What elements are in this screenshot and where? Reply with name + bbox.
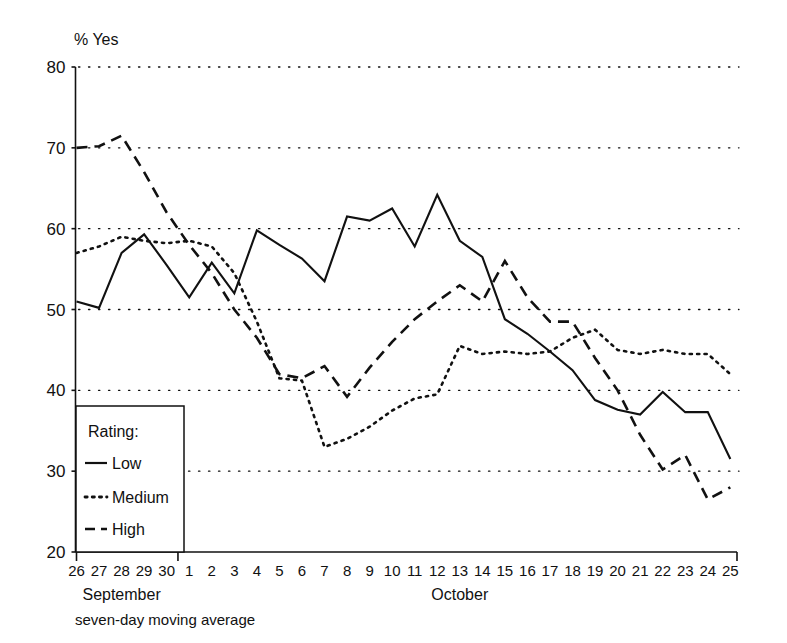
x-tick-label-29: 25	[722, 562, 739, 579]
y-tick-label-40: 40	[47, 381, 66, 400]
chart-container: 20304050607080 % Yes 2627282930123456789…	[0, 0, 787, 643]
x-group-label-october: October	[431, 586, 489, 603]
legend-label-high: High	[112, 521, 145, 538]
x-tick-label-1: 27	[91, 562, 108, 579]
x-tick-labels: 2627282930123456789101112131415161718192…	[68, 562, 739, 579]
x-tick-label-5: 1	[185, 562, 193, 579]
legend-label-medium: Medium	[112, 489, 169, 506]
x-tick-label-8: 4	[253, 562, 261, 579]
y-tick-labels: 20304050607080	[47, 58, 76, 562]
y-tick-label-70: 70	[47, 139, 66, 158]
x-tick-label-14: 10	[384, 562, 401, 579]
x-tick-label-24: 20	[609, 562, 626, 579]
x-tick-label-10: 6	[298, 562, 306, 579]
x-tick-label-20: 16	[519, 562, 536, 579]
legend-label-low: Low	[112, 455, 142, 472]
x-tick-label-16: 12	[429, 562, 446, 579]
x-tick-label-19: 15	[497, 562, 514, 579]
x-tick-label-13: 9	[365, 562, 373, 579]
x-tick-label-18: 14	[474, 562, 491, 579]
legend: Rating: Low Medium High	[76, 406, 184, 552]
x-group-label-september: September	[82, 586, 161, 603]
y-tick-label-20: 20	[47, 543, 66, 562]
x-tick-label-3: 29	[136, 562, 153, 579]
x-tick-label-28: 24	[699, 562, 716, 579]
footnote: seven-day moving average	[75, 611, 255, 628]
y-tick-label-50: 50	[47, 301, 66, 320]
x-tick-label-0: 26	[68, 562, 85, 579]
y-tick-label-60: 60	[47, 220, 66, 239]
x-tick-label-4: 30	[158, 562, 175, 579]
x-tick-label-25: 21	[632, 562, 649, 579]
legend-title: Rating:	[88, 423, 139, 440]
x-tick-label-27: 23	[677, 562, 694, 579]
x-tick-label-6: 2	[208, 562, 216, 579]
x-tick-label-17: 13	[451, 562, 468, 579]
y-tick-label-30: 30	[47, 462, 66, 481]
y-tick-label-80: 80	[47, 58, 66, 77]
x-tick-label-15: 11	[407, 562, 423, 579]
x-tick-label-7: 3	[230, 562, 238, 579]
x-tick-label-9: 5	[275, 562, 283, 579]
x-tick-label-26: 22	[654, 562, 671, 579]
x-tick-label-2: 28	[113, 562, 130, 579]
x-tick-label-12: 8	[343, 562, 351, 579]
x-tick-label-23: 19	[587, 562, 604, 579]
chart-svg: 20304050607080 % Yes 2627282930123456789…	[0, 0, 787, 643]
x-tick-label-11: 7	[320, 562, 328, 579]
y-axis-title: % Yes	[74, 31, 118, 48]
x-tick-label-22: 18	[564, 562, 581, 579]
x-tick-label-21: 17	[542, 562, 559, 579]
